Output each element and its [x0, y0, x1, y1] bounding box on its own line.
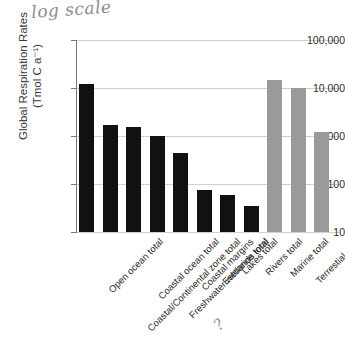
- y-tick-mark: [71, 184, 76, 185]
- y-tick-mark: [71, 232, 76, 233]
- y-axis-title-line1: Global Respiration Rates: [17, 12, 29, 140]
- x-tick-label: Open ocean total: [106, 236, 165, 295]
- y-tick-mark: [71, 136, 76, 137]
- bar-freshwater-wetlands-total: [150, 136, 165, 232]
- plot-area: [77, 40, 340, 232]
- respiration-rates-chart: log scale Global Respiration Rates (Tmol…: [0, 0, 345, 352]
- y-axis-title-line2: (Tmol C a⁻¹): [30, 0, 44, 176]
- bar-terrestial-total: [291, 88, 306, 232]
- y-tick-mark: [71, 88, 76, 89]
- bar-open-ocean-total: [79, 84, 94, 232]
- bar-lakes-total: [220, 195, 235, 232]
- bar-rivers-total: [244, 206, 259, 232]
- bar-coastal-continental-zone-total: [103, 125, 118, 232]
- y-axis-title: Global Respiration Rates (Tmol C a⁻¹): [16, 0, 44, 176]
- bar-estuarine-total: [197, 190, 212, 232]
- bar-coastal-ocean-total: [126, 127, 141, 232]
- bar-coastal-margins: [173, 153, 188, 232]
- handwritten-question-mark: ?: [210, 315, 228, 334]
- bar-freshwater-brackish-total: [314, 132, 329, 232]
- y-tick-mark: [71, 40, 76, 41]
- bar-marine-total: [267, 80, 282, 232]
